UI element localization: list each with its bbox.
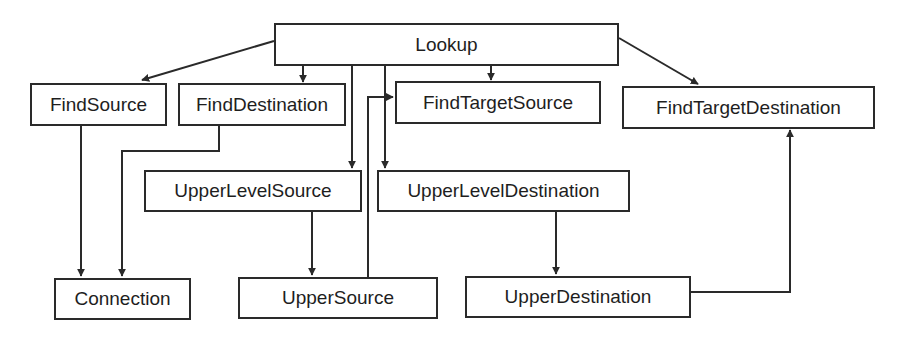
diagram-canvas: Lookup FindSource FindDestination FindTa… [0,0,902,340]
edge-lookup-to-find-source [142,41,274,80]
node-find-source-label: FindSource [50,94,147,116]
node-connection-label: Connection [74,288,170,310]
node-lookup[interactable]: Lookup [274,23,619,66]
node-find-target-source[interactable]: FindTargetSource [395,81,601,124]
node-upper-source[interactable]: UpperSource [238,277,438,319]
edge-lookup-to-find-target-destination [619,38,698,84]
node-upper-source-label: UpperSource [282,287,394,309]
node-upper-destination[interactable]: UpperDestination [465,276,691,318]
node-lookup-label: Lookup [415,34,477,56]
node-upper-destination-label: UpperDestination [505,286,652,308]
node-connection[interactable]: Connection [54,278,191,320]
node-find-destination-label: FindDestination [196,94,328,116]
edge-upper-destination-to-find-target-destination [691,130,790,292]
node-upper-level-source[interactable]: UpperLevelSource [144,170,362,212]
node-find-source[interactable]: FindSource [30,83,167,126]
node-upper-level-source-label: UpperLevelSource [174,180,331,202]
node-upper-level-destination-label: UpperLevelDestination [407,180,599,202]
node-find-target-source-label: FindTargetSource [423,92,573,114]
node-upper-level-destination[interactable]: UpperLevelDestination [377,170,630,212]
node-find-target-destination[interactable]: FindTargetDestination [622,86,875,129]
node-find-destination[interactable]: FindDestination [178,83,346,126]
node-find-target-destination-label: FindTargetDestination [656,97,841,119]
